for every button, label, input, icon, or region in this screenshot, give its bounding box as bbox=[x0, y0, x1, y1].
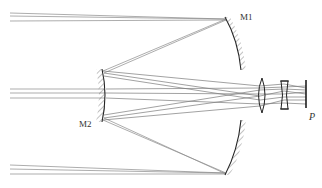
lens-biconcave bbox=[280, 81, 289, 109]
ray-bundle-converging bbox=[103, 71, 306, 120]
ray-bundle-axis bbox=[10, 89, 106, 98]
ray-bundle-top bbox=[10, 13, 226, 73]
optical-diagram: M1 M2 P bbox=[0, 0, 322, 188]
mirror-m2 bbox=[96, 69, 105, 122]
mirror-m2-label: M2 bbox=[79, 119, 92, 129]
image-plane-label: P bbox=[308, 111, 315, 122]
mirror-m1 bbox=[225, 17, 246, 70]
mirror-m1-label: M1 bbox=[240, 12, 253, 22]
mirror-m1-lower bbox=[225, 120, 246, 175]
rays bbox=[10, 13, 306, 174]
ray-bundle-bottom bbox=[10, 118, 226, 174]
